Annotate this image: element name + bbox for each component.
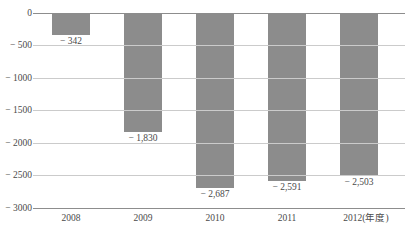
- bar-value-label-2008: − 342: [43, 36, 99, 47]
- ytick-label-2500: − 2500: [0, 170, 32, 180]
- bar-chart: 0 − 500 − 1000 − 1500 − 2000 − 2500 − 30…: [0, 0, 410, 229]
- bar-value-label-2011: − 2,591: [259, 182, 315, 193]
- xtick-label-2008: 2008: [43, 212, 99, 224]
- bar-2011: [268, 13, 306, 181]
- bar-2010: [196, 13, 234, 188]
- ytick-label-1500: − 1500: [0, 105, 32, 115]
- bar-2009: [124, 13, 162, 132]
- ytick-label-1000: − 1000: [0, 73, 32, 83]
- bar-value-label-2012: − 2,503: [331, 177, 387, 188]
- xtick-label-2010: 2010: [187, 212, 243, 224]
- bar-value-label-2010: − 2,687: [187, 189, 243, 200]
- bar-2012: [340, 13, 378, 176]
- xtick-label-2009: 2009: [115, 212, 171, 224]
- ytick-label-500: − 500: [0, 40, 32, 50]
- ytick-label-3000: − 3000: [0, 203, 32, 213]
- ytick-label-2000: − 2000: [0, 138, 32, 148]
- bar-2008: [52, 13, 90, 35]
- xtick-label-2011: 2011: [259, 212, 315, 224]
- xtick-label-2012: 2012(年度): [326, 212, 406, 224]
- ytick-label-0: 0: [0, 8, 32, 18]
- gridline-3000: [33, 208, 405, 209]
- plot-area: 0 − 500 − 1000 − 1500 − 2000 − 2500 − 30…: [0, 0, 410, 229]
- bar-value-label-2009: − 1,830: [115, 133, 171, 144]
